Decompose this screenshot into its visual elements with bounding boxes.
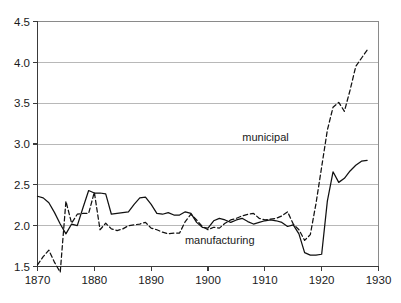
y-tick-label-1.5: 1.5 [14,261,30,273]
annotation-manufacturing: manufacturing [185,234,255,246]
figure-caption [10,291,160,303]
y-tick-label-2: 2.0 [14,220,30,232]
y-tick-label-3.5: 3.5 [14,97,30,109]
y-tick-label-4: 4.0 [14,57,30,69]
y-axis-tick-labels: 1.52.02.53.03.54.04.5 [14,16,30,273]
y-tick-label-3: 3.0 [14,138,30,150]
figure-container: 1.52.02.53.03.54.04.5 187018801890190019… [0,0,401,303]
series-annotations: municipalmanufacturing [185,131,289,246]
x-tick-label-1930: 1930 [366,274,392,286]
x-tick-label-1920: 1920 [309,274,335,286]
x-tick-label-1880: 1880 [82,274,108,286]
x-tick-label-1890: 1890 [138,274,164,286]
line-chart: 1.52.02.53.03.54.04.5 187018801890190019… [0,0,401,303]
x-tick-label-1870: 1870 [25,274,51,286]
y-tick-label-2.5: 2.5 [14,179,30,191]
x-axis-tick-labels: 1870188018901900191019201930 [25,274,392,286]
x-tick-label-1910: 1910 [252,274,278,286]
x-tick-label-1900: 1900 [195,274,221,286]
y-tick-label-4.5: 4.5 [14,16,30,28]
annotation-municipal: municipal [242,131,288,143]
